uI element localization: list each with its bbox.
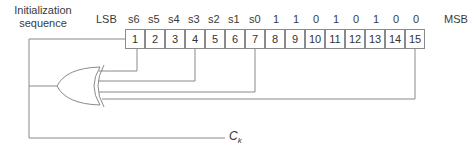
output-sequence-label: Ck [229,129,242,145]
register-cell: 14 [385,29,405,49]
register-cell: 5 [205,29,225,49]
tap-cell-1 [99,49,137,71]
circuit-wiring [0,0,476,149]
register-cell: 4 [185,29,205,49]
register-cell: 3 [165,29,185,49]
register-cell: 11 [325,29,345,49]
register-cell: 12 [345,29,365,49]
tap-cell-4 [98,49,195,81]
register-cell: 9 [285,29,305,49]
xor-gate-icon [57,67,100,105]
output-symbol: C [229,129,238,143]
register-cell: 15 [405,29,425,49]
register-cell: 2 [145,29,165,49]
register-cell: 6 [225,29,245,49]
output-subscript: k [238,136,242,145]
register-cell: 10 [305,29,325,49]
register-cell: 7 [245,29,265,49]
register-cell: 1 [125,29,145,49]
register-cell: 13 [365,29,385,49]
register-cell: 8 [265,29,285,49]
